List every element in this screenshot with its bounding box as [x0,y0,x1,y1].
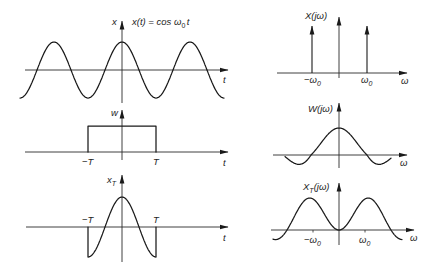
XT-spectrum-label: XT(jω) [302,181,329,194]
tick-main: −ω [304,74,318,85]
xT-label-subscript: T [112,180,117,187]
label-tail: (jω) [314,181,330,192]
panel-window-w: w −T T t [25,107,228,168]
t-axis-label: t [223,232,226,243]
t-axis-label: t [223,157,226,168]
neg-T-tick-label: −T [82,214,95,225]
tick-subscript: 0 [366,240,370,247]
X-spectrum-label: X(jω) [304,10,327,21]
tick-main: −ω [304,234,318,245]
neg-omega0-tick-label: −ω0 [304,234,321,247]
formula-subscript: 0 [181,22,185,29]
tick-subscript: 0 [317,80,321,87]
neg-omega0-tick-label: −ω0 [304,74,321,87]
omega-axis-label: ω [410,232,418,243]
tick-subscript: 0 [317,240,321,247]
panel-x-of-t: x x(t) = cos ω0t t [20,16,228,103]
omega-axis-label: ω [401,75,409,86]
panel-XT-spectrum: XT(jω) −ω0 ω0 ω [271,181,418,247]
w-axis-label: w [111,107,119,118]
diagram-canvas: x x(t) = cos ω0t t w −T T t xT −T T t X(… [0,0,431,273]
cosine-formula: x(t) = cos ω0t [131,16,190,29]
neg-T-tick-label: −T [82,156,95,167]
pos-T-tick-label: T [153,156,160,167]
formula-main: x(t) = cos ω [131,16,182,27]
panel-truncated-x: xT −T T t [26,174,228,262]
x-axis-label: x [111,16,118,27]
panel-W-spectrum: W(jω) ω [273,103,408,168]
shifted-sinc-sum-curve [273,198,402,240]
tick-subscript: 0 [368,80,372,87]
pos-omega0-tick-label: ω0 [361,74,372,87]
W-spectrum-label: W(jω) [308,103,333,114]
pos-omega0-tick-label: ω0 [359,234,370,247]
formula-tail: t [187,16,190,27]
sinc-curve [285,128,391,164]
xT-axis-label: xT [106,174,117,187]
omega-axis-label: ω [400,157,408,168]
t-axis-label: t [223,74,226,85]
pos-T-tick-label: T [153,214,160,225]
panel-X-spectrum: X(jω) −ω0 ω0 ω [277,10,409,87]
